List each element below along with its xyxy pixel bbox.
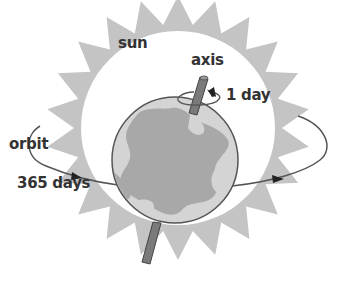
rotation-period-label: 1 day <box>226 88 270 103</box>
sun-label: sun <box>118 36 147 51</box>
orbit-label: orbit <box>9 137 48 152</box>
orbit-period-label: 365 days <box>17 176 90 191</box>
earth-sun-diagram: sun axis 1 day orbit 365 days <box>0 0 341 285</box>
diagram-canvas <box>0 0 341 285</box>
earth-icon <box>112 97 238 223</box>
axis-label: axis <box>191 53 224 68</box>
